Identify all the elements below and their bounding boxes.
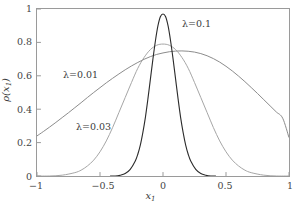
y-tick-label-1: 1 [8,4,32,14]
x-tick-label-1: 1 [276,181,301,191]
curve-lambda-0-01 [37,51,289,138]
chart-figure: 1 0.8 0.6 0.4 0.2 0 −1 −0.5 0 0.5 1 x1 ρ… [0,0,301,208]
y-tick-label-0-2: 0.2 [8,138,32,148]
y-axis-title-prefix: ρ( [0,92,11,102]
x-axis-title-subscript: 1 [151,195,155,203]
x-axis-title: x1 [0,191,301,203]
curve-canvas [37,9,289,176]
x-tick-label-minus-1: −1 [22,181,50,191]
y-axis-title: ρ(x1) [1,60,13,120]
annotation-lambda-0-1: λ=0.1 [182,19,211,29]
x-tick-label-0-5: 0.5 [209,181,241,191]
annotation-lambda-0-03: λ=0.03 [76,122,111,132]
y-tick-label-0-8: 0.8 [8,37,32,47]
y-axis-title-var: x [0,86,11,92]
x-tick-label-minus-0-5: −0.5 [85,181,121,191]
y-axis-title-subscript: 1 [5,82,13,86]
plot-area [36,8,290,177]
x-tick-label-0: 0 [149,181,177,191]
annotation-lambda-0-01: λ=0.01 [63,70,98,80]
curve-lambda-0-03 [37,44,289,176]
y-axis-title-suffix: ) [0,78,11,82]
axis-ticks [37,9,289,176]
